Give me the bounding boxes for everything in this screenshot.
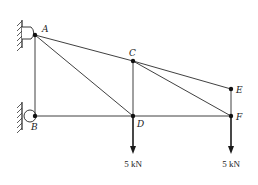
node-label-a: A <box>41 24 49 34</box>
joint-f <box>229 114 233 118</box>
member-ad <box>35 35 133 116</box>
arrow-down-icon <box>228 146 234 154</box>
load-label-d: 5 kN <box>124 159 142 169</box>
node-label-d: D <box>136 119 144 129</box>
node-label-c: C <box>129 48 136 58</box>
joint-c <box>131 59 135 63</box>
joint-a <box>33 33 37 37</box>
member-ce <box>133 61 231 89</box>
member-ac <box>35 35 133 61</box>
node-label-f: F <box>235 112 243 122</box>
joint-e <box>229 87 233 91</box>
load-arrow-d <box>130 116 136 154</box>
node-label-b: B <box>30 122 38 132</box>
joint-d <box>131 114 135 118</box>
node-label-e: E <box>235 85 243 95</box>
member-cf <box>133 61 231 116</box>
load-label-f: 5 kN <box>222 159 240 169</box>
truss-diagram: A B C D E F 5 kN 5 kN <box>0 0 258 185</box>
wall-support-a <box>17 20 34 51</box>
arrow-down-icon <box>130 146 136 154</box>
joint-b <box>33 114 37 118</box>
load-arrow-f <box>228 116 234 154</box>
pin-icon <box>22 27 34 39</box>
